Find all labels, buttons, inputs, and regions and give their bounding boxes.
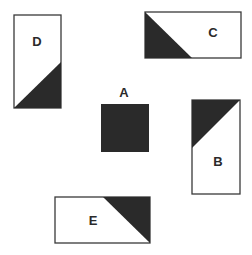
shape-a: A — [101, 85, 149, 152]
shape-d-label: D — [32, 34, 41, 49]
shape-e-label: E — [89, 213, 98, 228]
diagram-canvas: D C A B E — [0, 0, 252, 255]
shapes-diagram: D C A B E — [0, 0, 252, 255]
shape-c: C — [145, 12, 241, 58]
shape-c-label: C — [208, 25, 218, 40]
shape-d: D — [14, 15, 61, 108]
shape-a-filled-square — [101, 104, 149, 152]
shape-b-label: B — [213, 154, 222, 169]
shape-b: B — [192, 100, 240, 194]
shape-a-label: A — [119, 85, 129, 100]
shape-e: E — [55, 197, 150, 243]
